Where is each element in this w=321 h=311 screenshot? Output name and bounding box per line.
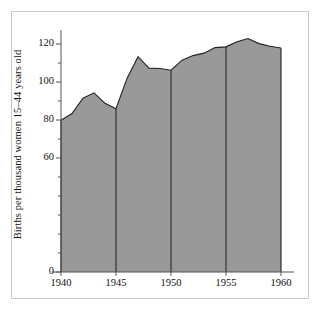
y-tick-label: 80: [20, 113, 54, 124]
x-tick-label: 1960: [261, 277, 301, 288]
x-tick-label: 1950: [151, 277, 191, 288]
x-tick-label: 1940: [41, 277, 81, 288]
y-tick-label: 120: [20, 37, 54, 48]
y-tick-label: 100: [20, 75, 54, 86]
figure: Births per thousand women 15–44 years ol…: [0, 0, 321, 311]
x-tick-label: 1945: [96, 277, 136, 288]
x-tick-label: 1955: [206, 277, 246, 288]
y-tick-label: 60: [20, 151, 54, 162]
chart-group: [52, 30, 294, 276]
y-tick-label: 0: [20, 265, 54, 276]
